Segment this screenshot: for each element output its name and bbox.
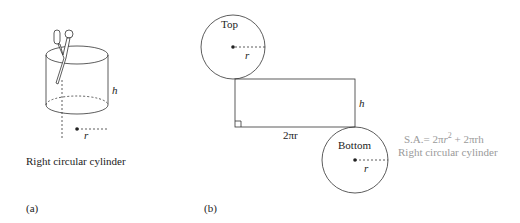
surface-area-formula: S.A.= 2πr2 + 2πrh xyxy=(404,131,484,145)
top-radius-label: r xyxy=(245,49,249,61)
scissors-icon xyxy=(54,30,73,84)
rect-height-label: h xyxy=(359,97,365,109)
cylinder-figure xyxy=(46,46,108,139)
rect-width-label: 2πr xyxy=(283,129,298,141)
cylinder-radius-label: r xyxy=(84,129,88,141)
cylinder-height-label: h xyxy=(112,84,118,96)
panel-b-tag: (b) xyxy=(204,202,217,214)
diagram-canvas xyxy=(0,0,520,223)
panel-a-caption: Right circular cylinder xyxy=(26,155,126,167)
bottom-center-dot xyxy=(353,158,357,162)
lateral-rectangle xyxy=(235,79,355,127)
cylinder-center-dot xyxy=(75,127,79,131)
panel-a-tag: (a) xyxy=(26,202,38,214)
formula-caption: Right circular cylinder xyxy=(398,146,498,158)
top-center-dot xyxy=(231,45,235,49)
bottom-label: Bottom xyxy=(338,139,371,151)
bottom-radius-label: r xyxy=(364,162,368,174)
top-label: Top xyxy=(221,18,238,30)
